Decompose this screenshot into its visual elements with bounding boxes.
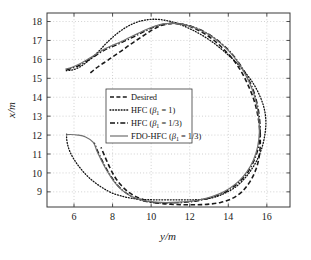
y-tick-label: 18 (32, 16, 42, 27)
y-tick-label: 14 (32, 92, 42, 103)
x-axis-label: y/m (159, 230, 176, 242)
x-tick-label: 8 (110, 211, 115, 222)
legend-label-desired: Desired (131, 93, 158, 102)
y-axis-label: x/m (5, 102, 17, 119)
legend: Desired HFC (β1 = 1) HFC (β1 = 1/3) FDO-… (106, 89, 202, 143)
legend-label-hfc-beta1: HFC (β1 = 1) (131, 106, 175, 116)
trajectory-chart: 68101214169101112131415161718 y/m x/m De… (0, 0, 311, 260)
y-tick-label: 15 (32, 73, 42, 84)
y-tick-label: 17 (32, 35, 42, 46)
y-tick-label: 12 (32, 130, 42, 141)
x-tick-label: 14 (223, 211, 233, 222)
x-tick-label: 6 (72, 211, 77, 222)
y-tick-label: 11 (32, 149, 42, 160)
x-tick-label: 12 (185, 211, 195, 222)
figure-container: 68101214169101112131415161718 y/m x/m De… (0, 0, 311, 260)
x-tick-label: 10 (146, 211, 156, 222)
y-tick-label: 16 (32, 54, 42, 65)
y-tick-label: 10 (32, 168, 42, 179)
y-tick-label: 13 (32, 111, 42, 122)
y-tick-label: 9 (37, 186, 42, 197)
legend-label-fdo-hfc: FDO-HFC (β1 = 1/3) (131, 132, 202, 142)
x-tick-label: 16 (262, 211, 272, 222)
